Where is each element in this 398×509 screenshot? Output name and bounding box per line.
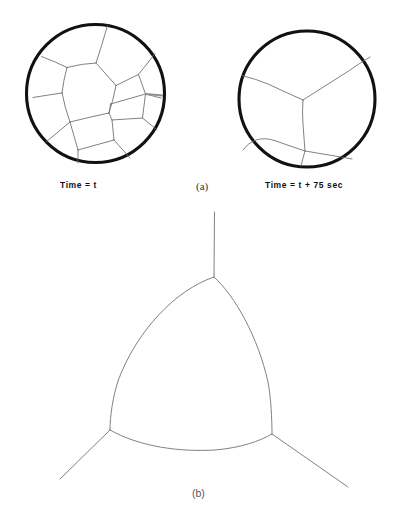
boundary-segment-highlight [146,94,164,96]
boundary-segment [303,57,370,100]
panel-b-group [60,212,348,487]
panel-b-caption: (b) [192,487,205,499]
boundary-segment [114,140,130,158]
boundary-segment [112,120,114,140]
boundary-segment [301,151,305,166]
figure-svg: Time = t Time = t + 75 sec (a) [0,0,398,509]
boundary-segment [96,63,116,86]
right-circle-time-label: Time = t + 75 sec [265,180,343,190]
boundary-segment [62,68,67,94]
boundary-segment [116,75,139,86]
boundary-segment [78,140,114,150]
boundary-segment [67,63,96,68]
boundary-segment [46,122,70,142]
curved-edge-right [214,277,272,434]
external-ray-bottom-left [60,430,110,479]
boundary-segment [33,93,62,98]
boundary-segment [111,94,146,104]
left-circle-grain-boundaries [33,26,161,164]
panel-a-right-circle-group: Time = t + 75 sec [239,31,375,190]
boundary-segment [109,113,112,120]
panel-a-caption: (a) [196,180,209,193]
boundary-segment [109,104,111,113]
boundary-segment [139,54,156,75]
boundary-segment [242,76,303,101]
boundary-segment [96,26,108,64]
boundary-segment [139,75,146,95]
boundary-segment [70,122,78,150]
boundary-segment [143,94,146,118]
external-ray-top [214,212,215,277]
boundary-segment [42,57,68,68]
panel-a-left-circle-group: Time = t [27,25,165,191]
boundary-segment [112,118,143,120]
right-circle-outline [239,31,375,167]
panel-b-grain-boundaries [60,212,348,487]
external-ray-bottom-right [272,434,348,487]
left-circle-outline [27,25,165,163]
boundary-segment [62,93,70,122]
boundary-segment [303,100,306,151]
curved-edge-bottom [110,430,272,450]
figure-container: Time = t Time = t + 75 sec (a) [0,0,398,509]
boundary-segment [70,113,109,122]
left-circle-time-label: Time = t [60,180,97,190]
boundary-segment [143,118,158,130]
curved-edge-left [110,277,214,430]
